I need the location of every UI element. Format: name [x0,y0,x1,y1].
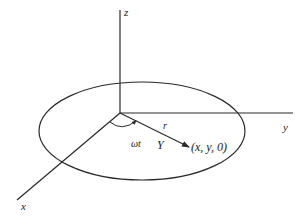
z-axis-label: z [123,6,129,18]
angle-label: ωt [131,138,141,149]
radius-label: r [163,120,167,131]
vector-label: Y [157,138,165,152]
circle-in-xy-plane-diagram: z y x r Y ωt (x, y, 0) [0,0,305,216]
angle-arc [110,121,136,127]
y-axis-label: y [282,121,288,133]
x-axis-label: x [20,200,26,212]
circle-path [39,82,245,180]
point-label: (x, y, 0) [191,140,227,154]
x-axis [17,113,120,200]
